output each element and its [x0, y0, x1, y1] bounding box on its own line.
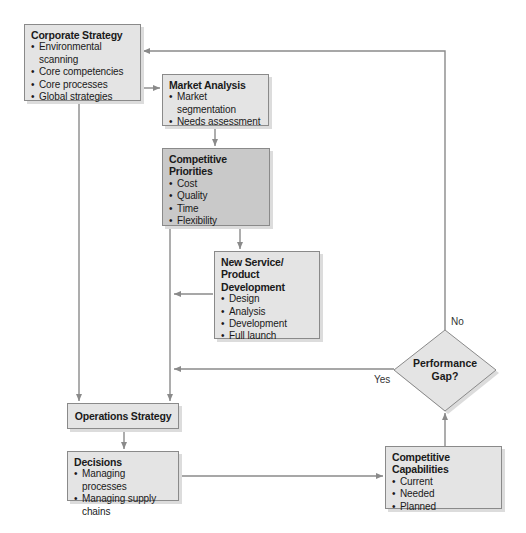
market-analysis-title: Market Analysis [169, 79, 262, 91]
list-item: Planned [392, 501, 495, 513]
corporate-strategy-title: Corporate Strategy [31, 29, 134, 41]
competitive-priorities-title: Competitive Priorities [169, 153, 263, 178]
market-analysis-box: Market Analysis Market segmentation Need… [162, 74, 269, 126]
performance-gap-label: Performance Gap? [400, 357, 490, 383]
new-service-development-box: New Service/ Product Development Design … [214, 251, 320, 339]
decisions-title: Decisions [74, 456, 172, 468]
list-item: Cost [169, 178, 263, 190]
list-item: Flexibility [169, 215, 263, 227]
list-item: Analysis [221, 306, 313, 318]
competitive-capabilities-title: Competitive Capabilities [392, 451, 495, 476]
list-item: Design [221, 293, 313, 305]
list-item: Environmental scanning [31, 41, 134, 66]
list-item: Market segmentation [169, 91, 262, 116]
performance-gap-line1: Performance [400, 357, 490, 370]
list-item: Development [221, 318, 313, 330]
list-item: Full launch [221, 330, 313, 342]
operations-strategy-title: Operations Strategy [75, 410, 172, 422]
list-item: Time [169, 203, 263, 215]
list-item: Managing processes [74, 468, 172, 493]
list-item: Core processes [31, 79, 134, 91]
competitive-capabilities-box: Competitive Capabilities Current Needed … [385, 446, 502, 509]
list-item: Current [392, 476, 495, 488]
no-label: No [451, 316, 464, 327]
list-item: Global strategies [31, 91, 134, 103]
yes-label: Yes [374, 374, 390, 385]
list-item: Needs assessment [169, 116, 262, 128]
new-service-title-line2: Product Development [221, 268, 313, 293]
list-item: Quality [169, 190, 263, 202]
competitive-priorities-box: Competitive Priorities Cost Quality Time… [162, 148, 270, 226]
decisions-box: Decisions Managing processes Managing su… [67, 451, 179, 501]
corporate-strategy-box: Corporate Strategy Environmental scannin… [24, 24, 141, 101]
list-item: Needed [392, 488, 495, 500]
new-service-title-line1: New Service/ [221, 256, 313, 268]
operations-strategy-box: Operations Strategy [67, 403, 179, 429]
performance-gap-line2: Gap? [400, 370, 490, 383]
list-item: Managing supply chains [74, 493, 172, 518]
list-item: Core competencies [31, 66, 134, 78]
